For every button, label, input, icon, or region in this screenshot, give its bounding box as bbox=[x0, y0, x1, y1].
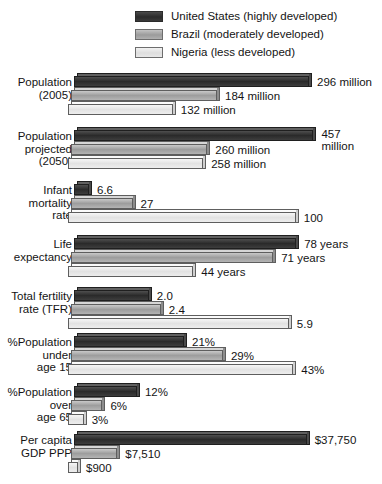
chart-group-population-2005: Population(2005)296 million184 million13… bbox=[0, 76, 382, 124]
bar-body bbox=[68, 266, 193, 277]
group-bars-per-capita-gdp-ppp: $37,750$7,510$900 bbox=[0, 434, 382, 482]
bar-front-facet bbox=[68, 212, 296, 223]
group-bars-pct-population-over-65: 12%6%3% bbox=[0, 386, 382, 434]
bar-side-facet bbox=[193, 263, 196, 277]
legend-label: United States (highly developed) bbox=[171, 10, 337, 22]
bar-side-facet bbox=[293, 361, 296, 375]
bar-body bbox=[74, 336, 184, 347]
bar-front-facet bbox=[68, 104, 173, 115]
bar-value-label: 71 years bbox=[281, 252, 325, 264]
chart-group-total-fertility-rate: Total fertilityrate (TFR)2.02.45.9 bbox=[0, 290, 382, 338]
bar-side-facet bbox=[102, 397, 105, 411]
chart-group-pct-population-over-65: %Populationoverage 6512%6%3% bbox=[0, 386, 382, 434]
bar-side-facet bbox=[149, 287, 152, 301]
bar-value-label: 258 million bbox=[211, 158, 266, 170]
bar-value-label: 5.9 bbox=[297, 318, 313, 330]
bar-body bbox=[71, 304, 161, 315]
legend-item-br: Brazil (moderately developed) bbox=[135, 26, 337, 42]
bar-side-facet bbox=[289, 315, 292, 329]
group-bars-population-projected-2050: 457million260 million258 million bbox=[0, 130, 382, 178]
bar-value-label: $7,510 bbox=[125, 448, 160, 460]
bar-front-facet bbox=[68, 318, 289, 329]
group-bars-population-2005: 296 million184 million132 million bbox=[0, 76, 382, 124]
chart-group-population-projected-2050: Populationprojected(2050)457million260 m… bbox=[0, 130, 382, 178]
bar-value-label: 6% bbox=[110, 400, 127, 412]
bar-value-label: 43% bbox=[301, 364, 324, 376]
bar-front-facet bbox=[71, 400, 102, 411]
bar-value-label: 296 million bbox=[317, 76, 372, 88]
bar-front-facet bbox=[74, 238, 296, 249]
bar-front-facet bbox=[68, 158, 203, 169]
bar-front-facet bbox=[71, 304, 161, 315]
bar-front-facet bbox=[74, 336, 184, 347]
bar-side-facet bbox=[296, 235, 299, 249]
bar-front-facet bbox=[74, 290, 149, 301]
legend-swatch-ng-icon bbox=[135, 47, 163, 58]
bar-body bbox=[74, 76, 309, 87]
bar-body bbox=[68, 462, 78, 473]
chart-group-pct-population-under-15: %Populationunderage 1521%29%43% bbox=[0, 336, 382, 384]
bar-body bbox=[74, 290, 149, 301]
bar-value-label: 100 bbox=[304, 212, 323, 224]
bar-body bbox=[68, 212, 296, 223]
bar-side-facet bbox=[309, 73, 312, 87]
chart-group-life-expectancy: Lifeexpectancy78 years71 years44 years bbox=[0, 238, 382, 286]
legend-item-ng: Nigeria (less developed) bbox=[135, 44, 337, 60]
legend-swatch-br-icon bbox=[135, 29, 163, 40]
bar-side-facet bbox=[161, 301, 164, 315]
bar-front-facet bbox=[68, 462, 78, 473]
group-bars-life-expectancy: 78 years71 years44 years bbox=[0, 238, 382, 286]
bar-body bbox=[68, 158, 203, 169]
group-bars-total-fertility-rate: 2.02.45.9 bbox=[0, 290, 382, 338]
bar-body bbox=[68, 364, 293, 375]
bar-body bbox=[68, 318, 289, 329]
bar-value-label: 132 million bbox=[181, 104, 236, 116]
bar-body bbox=[74, 434, 307, 445]
bar-side-facet bbox=[117, 445, 120, 459]
bar-front-facet bbox=[71, 90, 217, 101]
bar-value-label: 457million bbox=[321, 129, 354, 152]
bar-value-label: 78 years bbox=[304, 238, 348, 250]
group-bars-pct-population-under-15: 21%29%43% bbox=[0, 336, 382, 384]
legend-swatch-us-icon bbox=[135, 11, 163, 22]
bar-body bbox=[71, 144, 207, 155]
bar-body bbox=[71, 198, 133, 209]
group-bars-infant-mortality-rate: 6.627100 bbox=[0, 184, 382, 232]
bar-side-facet bbox=[184, 333, 187, 347]
chart-group-per-capita-gdp-ppp: Per capitaGDP PPP$37,750$7,510$900 bbox=[0, 434, 382, 482]
bar-side-facet bbox=[89, 181, 92, 195]
bar-front-facet bbox=[71, 350, 223, 361]
bar-value-label-line: million bbox=[321, 141, 354, 153]
bar-value-label: $37,750 bbox=[315, 434, 357, 446]
bar-body bbox=[74, 184, 89, 195]
bar-front-facet bbox=[71, 198, 133, 209]
bar-front-facet bbox=[68, 266, 193, 277]
bar-body bbox=[71, 90, 217, 101]
bar-front-facet bbox=[74, 184, 89, 195]
bar-side-facet bbox=[133, 195, 136, 209]
bar-front-facet bbox=[71, 448, 117, 459]
bar-side-facet bbox=[173, 101, 176, 115]
bar-front-facet bbox=[71, 144, 207, 155]
bar-front-facet bbox=[71, 252, 273, 263]
bar-front-facet bbox=[74, 386, 137, 397]
bar-side-facet bbox=[296, 209, 299, 223]
bar-value-label: 184 million bbox=[225, 90, 280, 102]
bar-side-facet bbox=[223, 347, 226, 361]
chart-legend: United States (highly developed)Brazil (… bbox=[135, 8, 337, 62]
bar-front-facet bbox=[74, 434, 307, 445]
bar-body bbox=[71, 350, 223, 361]
bar-value-label: $900 bbox=[86, 462, 112, 474]
bar-value-label: 44 years bbox=[201, 266, 245, 278]
bar-side-facet bbox=[78, 459, 81, 473]
bar-side-facet bbox=[313, 127, 316, 141]
bar-body bbox=[74, 238, 296, 249]
comparative-development-bar-chart: United States (highly developed)Brazil (… bbox=[0, 0, 382, 484]
bar-value-label: 12% bbox=[145, 386, 168, 398]
bar-front-facet bbox=[74, 76, 309, 87]
bar-side-facet bbox=[84, 411, 87, 425]
bar-front-facet bbox=[74, 130, 313, 141]
bar-front-facet bbox=[68, 414, 84, 425]
bar-value-label-line: 457 bbox=[321, 129, 354, 141]
legend-label: Brazil (moderately developed) bbox=[171, 28, 324, 40]
